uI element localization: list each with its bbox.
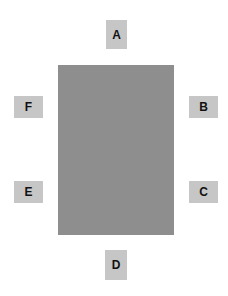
label-a: A xyxy=(106,20,127,49)
label-d: D xyxy=(105,250,127,280)
label-c: C xyxy=(189,181,218,203)
center-block xyxy=(58,65,174,235)
label-b: B xyxy=(189,96,218,118)
label-e: E xyxy=(14,181,43,203)
label-f: F xyxy=(14,96,43,118)
